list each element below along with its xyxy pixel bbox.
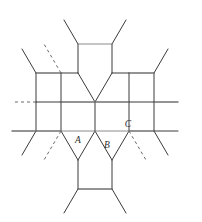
vertex-label-b: B — [104, 140, 110, 150]
honeycomb-lattice-figure: A B C — [0, 0, 202, 222]
vertex-label-c: C — [125, 119, 132, 129]
lattice-svg: A B C — [0, 0, 202, 222]
vertex-label-a: A — [74, 135, 81, 145]
